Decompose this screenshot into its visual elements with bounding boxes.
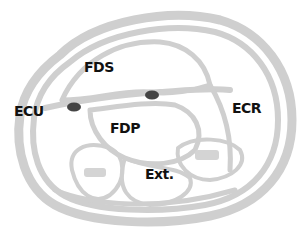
cross-section-diagram: FDS ECU FDP ECR Ext. bbox=[0, 0, 300, 233]
label-ecu: ECU bbox=[14, 104, 44, 118]
label-fdp: FDP bbox=[110, 121, 140, 135]
label-ext: Ext. bbox=[145, 167, 174, 181]
cross-section-outline bbox=[0, 0, 300, 233]
label-fds: FDS bbox=[84, 60, 114, 74]
faint-label-right bbox=[195, 150, 219, 160]
label-ecr: ECR bbox=[232, 101, 261, 115]
nerve-dot-left bbox=[67, 103, 81, 112]
nerve-dot-right bbox=[145, 91, 159, 100]
faint-label-left bbox=[84, 168, 106, 177]
